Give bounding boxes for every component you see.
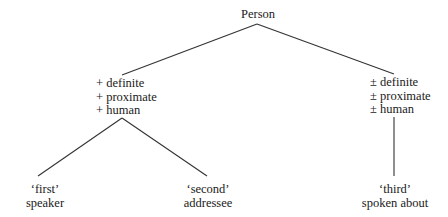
leaf-gloss: ‘first’ [26, 183, 64, 197]
feature-human: ± human [370, 103, 431, 117]
root-node-person: Person [241, 8, 275, 22]
edge-root-left [122, 24, 257, 75]
feature-proximate: ± proximate [370, 90, 431, 104]
leaf-gloss: ‘third’ [362, 183, 428, 197]
leaf-gloss: ‘second’ [184, 183, 233, 197]
leaf-third-person: ‘third’ spoken about [362, 183, 428, 210]
leaf-meaning: spoken about [362, 197, 428, 211]
feature-bundle-right: ± definite ± proximate ± human [370, 76, 431, 117]
leaf-second-person: ‘second’ addressee [184, 183, 233, 210]
leaf-first-person: ‘first’ speaker [26, 183, 64, 210]
edge-left-second [122, 118, 207, 176]
feature-human: + human [96, 104, 157, 118]
leaf-meaning: speaker [26, 197, 64, 211]
edge-root-right [257, 24, 394, 74]
feature-definite: + definite [96, 77, 157, 91]
leaf-meaning: addressee [184, 197, 233, 211]
edge-left-first [38, 118, 122, 176]
feature-proximate: + proximate [96, 91, 157, 105]
feature-definite: ± definite [370, 76, 431, 90]
feature-bundle-left: + definite + proximate + human [96, 77, 157, 118]
